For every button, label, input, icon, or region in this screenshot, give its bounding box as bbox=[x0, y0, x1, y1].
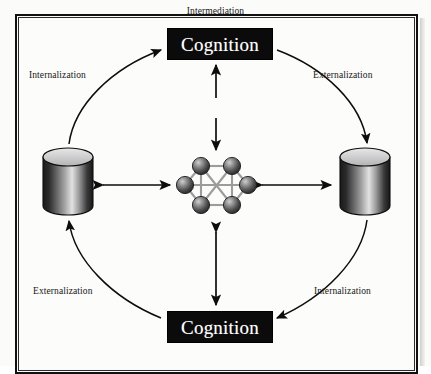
arrow-externalization-bottom-left bbox=[69, 221, 161, 318]
database-right[interactable] bbox=[340, 148, 390, 215]
arrow-internalization-top-left bbox=[69, 50, 161, 144]
label-internalization-bottom-right: Internalization bbox=[314, 286, 371, 296]
label-intermediation: Intermediation bbox=[187, 6, 244, 16]
cognition-box-top-label: Cognition bbox=[181, 35, 259, 54]
cognition-box-top[interactable]: Cognition bbox=[167, 28, 273, 60]
cognition-box-bottom[interactable]: Cognition bbox=[167, 311, 273, 343]
arrow-internalization-bottom-right bbox=[277, 220, 367, 318]
cognition-box-bottom-label: Cognition bbox=[181, 318, 259, 337]
database-left[interactable] bbox=[43, 148, 93, 215]
arrow-externalization-top-right bbox=[277, 50, 367, 143]
network-graph[interactable] bbox=[176, 157, 256, 213]
label-internalization-top-left: Internalization bbox=[29, 70, 86, 80]
label-externalization-top-right: Externalization bbox=[313, 70, 373, 80]
label-externalization-bottom-left: Externalization bbox=[33, 286, 93, 296]
